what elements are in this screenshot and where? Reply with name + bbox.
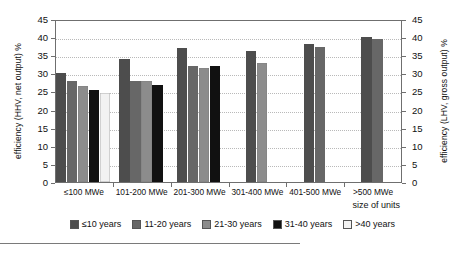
y-tick-mark-left-35 — [51, 56, 55, 57]
y-tick-label-left-40: 40 — [18, 33, 48, 43]
chart-legend: ≤10 years11-20 years21-30 years31-40 yea… — [0, 219, 465, 229]
bar — [372, 39, 383, 182]
y-tick-mark-right-25 — [402, 92, 406, 93]
y-tick-mark-left-25 — [51, 92, 55, 93]
legend-label: 11-20 years — [144, 219, 191, 229]
y-tick-mark-right-15 — [402, 129, 406, 130]
legend-swatch-icon — [70, 220, 79, 229]
bar — [130, 81, 141, 182]
bar — [177, 48, 188, 182]
y-axis-title-left: efficiency (HHV, net output) % — [13, 26, 23, 176]
y-tick-label-left-25: 25 — [18, 87, 48, 97]
bar — [119, 59, 130, 182]
y-tick-mark-right-5 — [402, 165, 406, 166]
legend-label: ≤10 years — [82, 219, 121, 229]
legend-item[interactable]: 21-30 years — [202, 219, 262, 229]
footer-divider — [0, 243, 300, 244]
bar — [246, 51, 257, 182]
legend-label: 31-40 years — [285, 219, 333, 229]
y-tick-label-left-15: 15 — [18, 124, 48, 134]
legend-item[interactable]: 31-40 years — [273, 219, 333, 229]
y-tick-label-left-30: 30 — [18, 69, 48, 79]
y-tick-label-right-0: 0 — [412, 178, 442, 188]
bar — [304, 44, 315, 182]
bar — [152, 85, 163, 182]
legend-swatch-icon — [132, 220, 141, 229]
x-tick-label: 301-400 MWe — [229, 187, 287, 197]
y-tick-label-left-0: 0 — [18, 178, 48, 188]
legend-item[interactable]: >40 years — [343, 219, 395, 229]
y-tick-mark-right-0 — [402, 183, 406, 184]
y-tick-mark-right-30 — [402, 74, 406, 75]
x-tick-label: 401-500 MWe — [286, 187, 344, 197]
y-tick-mark-right-10 — [402, 147, 406, 148]
chart-figure: efficiency (HHV, net output) % efficienc… — [0, 0, 465, 255]
bar — [210, 66, 221, 182]
y-tick-label-right-10: 10 — [412, 142, 442, 152]
y-tick-label-left-45: 45 — [18, 15, 48, 25]
y-tick-label-left-10: 10 — [18, 142, 48, 152]
y-tick-mark-left-15 — [51, 129, 55, 130]
bar-series-container — [56, 21, 401, 182]
legend-label: 21-30 years — [214, 219, 262, 229]
y-tick-mark-left-20 — [51, 111, 55, 112]
x-axis-title: size of units — [270, 200, 400, 210]
y-tick-mark-right-20 — [402, 111, 406, 112]
plot-area — [55, 20, 402, 183]
y-tick-label-left-20: 20 — [18, 106, 48, 116]
x-tick-label: >500 MWe — [344, 187, 402, 197]
y-tick-mark-right-40 — [402, 38, 406, 39]
legend-item[interactable]: ≤10 years — [70, 219, 121, 229]
y-tick-label-right-5: 5 — [412, 160, 442, 170]
legend-label: >40 years — [355, 219, 395, 229]
y-tick-mark-right-45 — [402, 20, 406, 21]
y-tick-label-left-35: 35 — [18, 51, 48, 61]
bar — [141, 81, 152, 182]
y-tick-mark-left-30 — [51, 74, 55, 75]
legend-swatch-icon — [273, 220, 282, 229]
y-tick-label-right-35: 35 — [412, 51, 442, 61]
y-tick-mark-left-0 — [51, 183, 55, 184]
bar — [78, 86, 89, 182]
y-tick-mark-left-5 — [51, 165, 55, 166]
bar — [89, 90, 100, 182]
y-tick-label-right-40: 40 — [412, 33, 442, 43]
bar — [67, 81, 78, 182]
bar — [361, 37, 372, 182]
y-tick-mark-left-40 — [51, 38, 55, 39]
y-tick-label-right-20: 20 — [412, 106, 442, 116]
x-tick-label: 101-200 MWe — [113, 187, 171, 197]
y-tick-mark-left-10 — [51, 147, 55, 148]
y-tick-label-left-5: 5 — [18, 160, 48, 170]
legend-swatch-icon — [202, 220, 211, 229]
legend-item[interactable]: 11-20 years — [132, 219, 191, 229]
y-tick-label-right-45: 45 — [412, 15, 442, 25]
bar — [100, 93, 111, 182]
y-tick-label-right-15: 15 — [412, 124, 442, 134]
y-tick-label-right-30: 30 — [412, 69, 442, 79]
x-tick-label: ≤100 MWe — [55, 187, 113, 197]
bar — [199, 68, 210, 182]
y-tick-mark-left-45 — [51, 20, 55, 21]
y-tick-mark-right-35 — [402, 56, 406, 57]
bar — [315, 47, 326, 182]
y-tick-label-right-25: 25 — [412, 87, 442, 97]
bar — [56, 73, 67, 182]
y-axis-title-right: efficiency (LHV, gross output) % — [439, 26, 449, 176]
bar — [188, 66, 199, 182]
bar — [257, 63, 268, 182]
legend-swatch-icon — [343, 220, 352, 229]
x-tick-label: 201-300 MWe — [171, 187, 229, 197]
